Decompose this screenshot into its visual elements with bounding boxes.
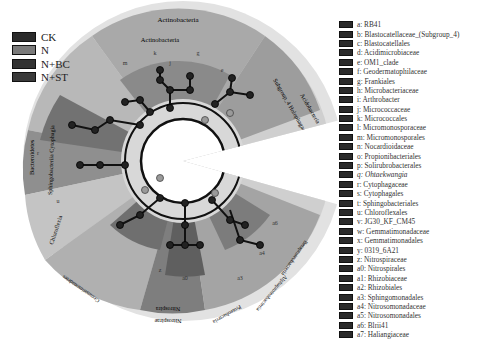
taxa-legend-item: a3: Sphingomonadales — [339, 292, 459, 301]
swatch-icon — [339, 124, 353, 131]
taxa-legend-label: t: Sphingobacteriales — [357, 199, 418, 208]
taxa-legend-item: q: Ohtaekwangia — [339, 170, 459, 179]
label-actinobacteria-outer: Actinobacteria — [157, 16, 199, 24]
taxa-legend-label: w: Gemmatimonadaceae — [357, 227, 429, 236]
legend-item-n-bc: N+BC — [12, 57, 70, 70]
swatch-icon — [339, 247, 353, 254]
swatch-icon — [339, 153, 353, 160]
taxa-legend-item: j: Micrococcaceae — [339, 105, 459, 114]
swatch-icon — [339, 331, 353, 338]
swatch-icon — [12, 32, 36, 42]
swatch-icon — [339, 218, 353, 225]
swatch-icon — [339, 265, 353, 272]
legend-item-n: N — [12, 44, 70, 57]
label-nitrospira: Nitrospira — [155, 306, 180, 312]
swatch-icon — [339, 190, 353, 197]
taxa-legend-label: a4: Nitrosomonadaceae — [357, 302, 426, 311]
swatch-icon — [339, 49, 353, 56]
taxa-legend-item: s: Cytophagales — [339, 189, 459, 198]
taxa-legend-label: e: OM1_clade — [357, 58, 399, 67]
swatch-icon — [339, 237, 353, 244]
swatch-icon — [339, 21, 353, 28]
swatch-icon — [339, 106, 353, 113]
sector-letter: z — [159, 267, 162, 273]
sector-letter: a4 — [259, 250, 265, 256]
taxa-legend-label: b: Blastocatellaceae_(Subgroup_4) — [357, 30, 459, 39]
swatch-icon — [339, 228, 353, 235]
taxa-legend-item: a0: Nitrospirales — [339, 264, 459, 273]
swatch-icon — [339, 181, 353, 188]
swatch-icon — [339, 96, 353, 103]
swatch-icon — [339, 200, 353, 207]
swatch-icon — [339, 312, 353, 319]
taxa-legend-label: a3: Sphingomonadales — [357, 293, 423, 302]
taxa-legend-item: p: Solirubrobacterales — [339, 161, 459, 170]
taxa-legend-label: x: Gemmatimonadales — [357, 236, 423, 245]
swatch-icon — [339, 256, 353, 263]
swatch-icon — [339, 115, 353, 122]
taxa-legend-item: i: Arthrobacter — [339, 95, 459, 104]
taxa-legend-label: a1: Rhizobiaceae — [357, 274, 407, 283]
taxa-legend-item: n: Nocardioidaceae — [339, 142, 459, 151]
taxa-legend-label: z: Nitrospiraceae — [357, 255, 407, 264]
swatch-icon — [12, 72, 36, 82]
taxa-legend-item: r: Cytophagaceae — [339, 180, 459, 189]
swatch-icon — [339, 209, 353, 216]
sector-letter: m — [123, 60, 128, 66]
taxa-legend-label: a0: Nitrospirales — [357, 264, 405, 273]
legend-label: N+BC — [41, 58, 70, 70]
legend-item-n-st: N+ST — [12, 71, 70, 84]
sector-letter: a0 — [182, 275, 188, 281]
swatch-icon — [339, 134, 353, 141]
swatch-icon — [339, 303, 353, 310]
label-actinobacteria-inner: Actinobacteria — [141, 36, 179, 43]
taxa-legend-label: d: Acidimicrobiaceae — [357, 48, 419, 57]
taxa-legend-item: d: Acidimicrobiaceae — [339, 48, 459, 57]
taxa-legend-label: i: Arthrobacter — [357, 95, 400, 104]
group-legend: CK N N+BC N+ST — [12, 30, 70, 84]
taxa-legend-label: s: Cytophagales — [357, 189, 403, 198]
taxa-legend-label: v: JG30_KF_CM45 — [357, 217, 415, 226]
taxa-legend-label: p: Solirubrobacterales — [357, 161, 421, 170]
taxa-legend-label: a7: Haliangiaceae — [357, 330, 409, 339]
taxa-legend-item: a6: Blrii41 — [339, 321, 459, 330]
taxa-legend-item: b: Blastocatellaceae_(Subgroup_4) — [339, 29, 459, 38]
taxa-legend-item: a7: Haliangiaceae — [339, 330, 459, 339]
taxa-legend-item: m: Micromonosporales — [339, 133, 459, 142]
taxa-legend-item: a5: Nitrosomonadales — [339, 311, 459, 320]
label-blastocatellia-side: Blastocatellia — [316, 134, 327, 165]
taxa-legend-label: y: 0319_6A21 — [357, 246, 399, 255]
taxa-legend-item: o: Propionibacteriales — [339, 151, 459, 160]
taxa-legend-item: c: Blastocatellales — [339, 39, 459, 48]
swatch-icon — [339, 143, 353, 150]
taxa-legend-item: t: Sphingobacteriales — [339, 198, 459, 207]
taxa-legend-label: c: Blastocatellales — [357, 39, 410, 48]
sector-letter: e — [221, 67, 224, 73]
swatch-icon — [339, 275, 353, 282]
taxa-legend-item: k: Micrococcales — [339, 114, 459, 123]
sector-letter: r — [37, 150, 39, 156]
label-nitrospirae: Nitrospirae — [154, 318, 181, 324]
swatch-icon — [12, 45, 36, 55]
taxa-legend-label: a6: Blrii41 — [357, 321, 388, 330]
taxa-legend-item: u: Chloroflexales — [339, 208, 459, 217]
swatch-icon — [339, 162, 353, 169]
taxa-legend-label: l: Micromonosporaceae — [357, 123, 426, 132]
swatch-icon — [339, 87, 353, 94]
swatch-icon — [339, 322, 353, 329]
taxa-legend-label: h: Microbacteriaceae — [357, 86, 418, 95]
sector-letter: a6 — [272, 220, 278, 226]
taxa-legend-item: g: Frankiales — [339, 76, 459, 85]
swatch-icon — [339, 284, 353, 291]
taxa-legend-item: a: RB41 — [339, 20, 459, 29]
taxa-legend-label: g: Frankiales — [357, 77, 395, 86]
legend-label: CK — [41, 31, 56, 43]
swatch-icon — [12, 59, 36, 69]
legend-label: N — [41, 44, 49, 56]
legend-label: N+ST — [41, 71, 68, 83]
taxa-legend-item: h: Microbacteriaceae — [339, 86, 459, 95]
sector-letter: k — [154, 50, 157, 56]
sector-letter: u — [57, 198, 60, 204]
taxa-legend-label: a: RB41 — [357, 20, 381, 29]
taxa-legend-label: f: Geodermatophilaceae — [357, 67, 427, 76]
